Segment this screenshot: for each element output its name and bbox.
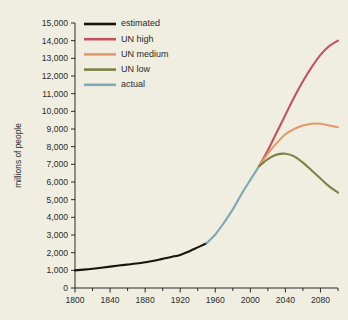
y-tick-label: 8,000	[46, 142, 68, 152]
series-line-un-low	[259, 154, 338, 193]
x-tick-label: 2080	[311, 295, 330, 305]
y-tick-label: 4,000	[46, 212, 68, 222]
x-tick-label: 2000	[241, 295, 260, 305]
x-tick-label: 1840	[101, 295, 120, 305]
legend-label-un-medium: UN medium	[121, 49, 169, 59]
legend-label-estimated: estimated	[121, 18, 160, 28]
y-tick-label: 12,000	[42, 71, 69, 81]
series-group	[75, 41, 338, 271]
y-tick-label: 10,000	[42, 106, 69, 116]
y-tick-label: 15,000	[42, 18, 69, 28]
x-tick-label: 1800	[65, 295, 84, 305]
x-tick-label: 1880	[136, 295, 155, 305]
chart-canvas: estimatedUN highUN mediumUN lowactual 01…	[0, 0, 348, 320]
y-axis-title: millions of people	[13, 123, 23, 188]
x-tick-label: 1920	[171, 295, 190, 305]
label-group: 01,0002,0003,0004,0005,0006,0007,0008,00…	[13, 18, 330, 305]
y-tick-label: 3,000	[46, 230, 68, 240]
y-tick-label: 6,000	[46, 177, 68, 187]
population-projection-chart: estimatedUN highUN mediumUN lowactual 01…	[0, 0, 348, 320]
x-tick-label: 1960	[206, 295, 225, 305]
legend-group: estimatedUN highUN mediumUN lowactual	[84, 18, 169, 89]
legend-label-un-high: UN high	[121, 34, 154, 44]
y-tick-label: 9,000	[46, 124, 68, 134]
y-tick-label: 14,000	[42, 36, 69, 46]
y-tick-label: 7,000	[46, 159, 68, 169]
series-line-estimated	[75, 243, 207, 270]
series-line-un-high	[259, 41, 338, 166]
series-line-actual	[207, 166, 260, 243]
x-tick-label: 2040	[276, 295, 295, 305]
y-tick-label: 0	[63, 283, 68, 293]
y-tick-label: 1,000	[46, 265, 68, 275]
y-tick-label: 13,000	[42, 53, 69, 63]
y-tick-label: 11,000	[42, 89, 68, 99]
y-tick-label: 5,000	[46, 195, 68, 205]
legend-label-actual: actual	[121, 79, 145, 89]
legend-label-un-low: UN low	[121, 64, 151, 74]
y-tick-label: 2,000	[46, 248, 68, 258]
axis-spine	[75, 23, 338, 288]
